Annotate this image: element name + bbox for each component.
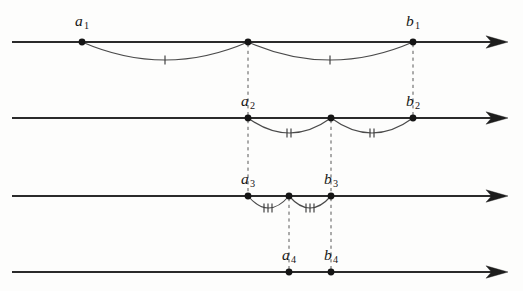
point-label-b3-base: b xyxy=(324,170,332,187)
point-dot-b1 xyxy=(410,39,417,46)
point-label-b4: b4 xyxy=(324,246,338,265)
point-label-b1-base: b xyxy=(406,12,414,29)
point-label-b2-base: b xyxy=(406,92,414,109)
point-label-b1-subscript: 1 xyxy=(415,20,420,31)
point-label-b2: b2 xyxy=(406,92,420,111)
arc-2-right xyxy=(331,118,413,133)
point-label-a1: a1 xyxy=(75,12,89,31)
nested-intervals-figure: a1b1a2b2a3b3a4b4 xyxy=(0,0,523,291)
point-dot-m2 xyxy=(328,115,335,122)
point-dot-b4 xyxy=(328,269,335,276)
point-dot-b2 xyxy=(410,115,417,122)
point-dot-a3 xyxy=(245,193,252,200)
point-dot-m1 xyxy=(245,39,252,46)
point-label-a4-base: a xyxy=(282,246,290,263)
point-label-a3-base: a xyxy=(241,170,249,187)
point-dot-a2 xyxy=(245,115,252,122)
point-label-b4-subscript: 4 xyxy=(333,254,338,265)
congruence-ticks-layer xyxy=(165,55,374,212)
nested-intervals-diagram: a1b1a2b2a3b3a4b4 xyxy=(0,0,523,291)
point-dot-m3 xyxy=(286,193,293,200)
point-label-a2-base: a xyxy=(241,92,249,109)
point-label-a3: a3 xyxy=(241,170,255,189)
point-label-a1-subscript: 1 xyxy=(84,20,89,31)
point-dot-b3 xyxy=(328,193,335,200)
number-lines-layer xyxy=(12,42,494,272)
point-dot-a4 xyxy=(286,269,293,276)
point-label-b4-base: b xyxy=(324,246,332,263)
point-label-b1: b1 xyxy=(406,12,420,31)
point-label-a2: a2 xyxy=(241,92,255,111)
arc-2-left xyxy=(248,118,331,133)
point-label-a2-subscript: 2 xyxy=(250,100,255,111)
point-label-a4: a4 xyxy=(282,246,296,265)
arrow-heads-layer xyxy=(486,36,508,278)
point-label-a3-subscript: 3 xyxy=(250,178,255,189)
point-label-a4-subscript: 4 xyxy=(291,254,296,265)
point-label-b3: b3 xyxy=(324,170,338,189)
point-dot-a1 xyxy=(79,39,86,46)
point-labels-layer: a1b1a2b2a3b3a4b4 xyxy=(75,12,420,265)
point-label-a1-base: a xyxy=(75,12,83,29)
dashed-connectors-layer xyxy=(248,44,413,270)
point-label-b2-subscript: 2 xyxy=(415,100,420,111)
point-label-b3-subscript: 3 xyxy=(333,178,338,189)
